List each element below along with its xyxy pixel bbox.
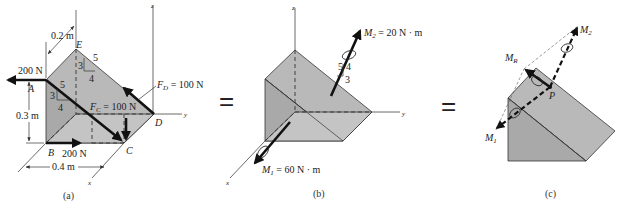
moment-arrow-m2-c (550, 28, 577, 87)
x-axis-b (230, 141, 265, 178)
y-axis-label-b: y (401, 110, 406, 118)
svg-text:5: 5 (338, 61, 343, 72)
caption-c: (c) (545, 188, 556, 200)
dim-label-width: 0.4 m (52, 161, 75, 172)
force-label-b-200n: 200 N (62, 148, 87, 159)
force-label-a-200n: 200 N (18, 65, 43, 76)
point-label-b: B (48, 147, 54, 158)
point-label-p: P (548, 90, 555, 101)
equals-sign-2: = (441, 91, 456, 121)
moment-label-m1-c: M1 (484, 132, 497, 145)
x-axis-ext-a (18, 143, 46, 172)
panel-c: P M1 M2 MR (c) (484, 24, 615, 200)
point-label-c: C (126, 145, 133, 156)
z-axis-label-b: z (291, 4, 295, 12)
x-axis-label-b: x (225, 179, 230, 187)
equivalent-force-system-diagram: z y x 200 N 200 N FC = 100 N FD = 100 N (0, 0, 618, 210)
point-p-marker (548, 85, 552, 89)
z-axis-label-a: z (150, 2, 154, 10)
x-axis-label-a: x (87, 179, 92, 187)
panel-a: z y x 200 N 200 N FC = 100 N FD = 100 N (8, 2, 204, 202)
equals-sign-1: = (219, 86, 234, 116)
panel-b: z y x M1 = 60 N · m M2 = 20 N · m 5 4 3 … (225, 4, 423, 200)
svg-text:3: 3 (345, 74, 350, 85)
caption-b: (b) (313, 188, 325, 200)
x-axis-a (92, 143, 124, 178)
svg-text:5: 5 (60, 79, 65, 90)
svg-text:5: 5 (93, 52, 98, 63)
caption-a: (a) (63, 190, 74, 202)
dim-label-height: 0.3 m (16, 110, 39, 121)
svg-text:4: 4 (89, 73, 94, 84)
y-axis-label-a: y (183, 111, 188, 119)
moment-label-m1: M1 = 60 N · m (261, 164, 321, 177)
point-label-d: D (154, 117, 163, 128)
svg-text:4: 4 (346, 61, 351, 72)
svg-text:4: 4 (58, 102, 63, 113)
svg-text:3: 3 (78, 60, 83, 71)
moment-label-m2: M2 = 20 N · m (363, 27, 423, 40)
point-label-a: A (27, 83, 35, 94)
moment-label-m2-c: M2 (579, 24, 592, 37)
moment-label-mr: MR (504, 52, 518, 65)
force-label-fd: FD = 100 N (156, 79, 204, 92)
dim-label-depth: 0.2 m (51, 30, 74, 41)
svg-text:3: 3 (50, 90, 55, 101)
